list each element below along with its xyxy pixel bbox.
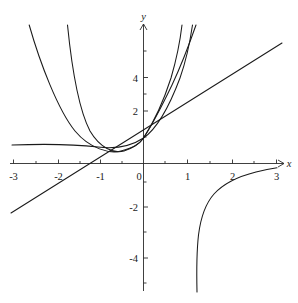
y-tick-labels: 4 2 -2 -4: [129, 73, 139, 265]
y-tick-label: -4: [129, 253, 138, 264]
curves-group: [11, 25, 282, 292]
x-axis-label: x: [286, 158, 292, 169]
x-tick-label: -1: [96, 171, 105, 182]
y-tick-marks: [144, 51, 149, 283]
x-tick-label: 3: [274, 171, 279, 182]
x-tick-marks: [14, 160, 277, 164]
y-tick-label: -2: [129, 202, 138, 213]
x-tick-label: -2: [54, 171, 63, 182]
plot-canvas: -3 -2 -1 0 1 2 3 4 2 -2 -4 x y: [0, 0, 298, 303]
y-tick-label: 4: [133, 73, 139, 84]
x-tick-labels: -3 -2 -1 0 1 2 3: [9, 171, 279, 182]
x-tick-label: 1: [185, 171, 190, 182]
x-tick-label: 0: [136, 171, 141, 182]
plot-figure: -3 -2 -1 0 1 2 3 4 2 -2 -4 x y: [0, 0, 298, 303]
axes-group: [10, 24, 284, 291]
curve-degree-2-taylor: [29, 25, 196, 152]
y-axis-label: y: [140, 11, 146, 22]
curve-degree-1-taylor: [11, 43, 282, 213]
x-tick-label: 2: [230, 171, 235, 182]
curve-log: [197, 168, 277, 292]
curve-degree-3-taylor: [12, 25, 193, 148]
x-tick-label: -3: [9, 171, 18, 182]
y-tick-label: 2: [133, 106, 138, 117]
curve-degree-4-taylor: [68, 25, 183, 152]
